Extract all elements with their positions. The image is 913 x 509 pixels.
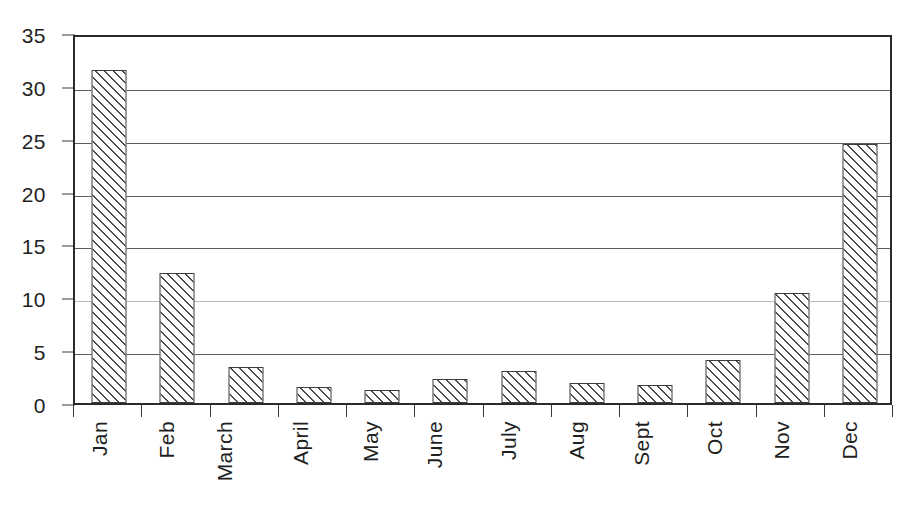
x-label-slot: Oct <box>687 417 755 509</box>
x-label-slot: June <box>414 417 482 509</box>
x-tick-mark <box>824 405 825 417</box>
bar[interactable] <box>842 144 877 403</box>
y-tick-label: 25 <box>22 130 46 151</box>
x-tick-label: July <box>497 421 518 460</box>
bar[interactable] <box>365 390 400 403</box>
bar[interactable] <box>638 385 673 403</box>
y-tick-label: 20 <box>22 183 46 204</box>
x-tick-label: Aug <box>566 421 587 460</box>
bars-group <box>75 37 890 403</box>
bar[interactable] <box>296 387 331 403</box>
x-tick-mark <box>278 405 279 417</box>
x-tick-label: Feb <box>157 421 178 458</box>
x-tick-mark <box>756 405 757 417</box>
x-label-slot: Aug <box>551 417 619 509</box>
bar[interactable] <box>569 383 604 403</box>
x-tick-label: April <box>290 421 311 465</box>
x-label-slot: Feb <box>141 417 209 509</box>
x-axis: JanFebMarchAprilMayJuneJulyAugSeptOctNov… <box>73 417 892 509</box>
x-tick-label: Sept <box>631 421 652 466</box>
x-tick-mark <box>210 405 211 417</box>
x-tick-mark <box>551 405 552 417</box>
bar[interactable] <box>433 379 468 403</box>
x-label-slot: May <box>346 417 414 509</box>
x-label-slot: Nov <box>756 417 824 509</box>
bar-slot <box>416 37 484 403</box>
bar[interactable] <box>228 367 263 403</box>
bar[interactable] <box>706 360 741 403</box>
y-tick-label: 15 <box>22 236 46 257</box>
x-tick-label: Oct <box>704 421 725 455</box>
bar-slot <box>280 37 348 403</box>
x-tick-label: May <box>360 421 381 462</box>
x-axis-ticks <box>73 405 892 417</box>
bar-slot <box>553 37 621 403</box>
x-tick-mark <box>414 405 415 417</box>
y-tick-label: 10 <box>22 289 46 310</box>
x-label-slot: April <box>278 417 346 509</box>
bar-slot <box>75 37 143 403</box>
x-tick-mark <box>892 405 893 417</box>
bar-slot <box>143 37 211 403</box>
x-tick-label: Jan <box>90 421 111 456</box>
bar[interactable] <box>774 293 809 403</box>
x-label-slot: July <box>483 417 551 509</box>
x-label-slot: Dec <box>824 417 892 509</box>
bar-slot <box>212 37 280 403</box>
bar-slot <box>348 37 416 403</box>
x-tick-mark <box>687 405 688 417</box>
x-tick-mark <box>141 405 142 417</box>
x-tick-mark <box>619 405 620 417</box>
x-label-slot: Sept <box>619 417 687 509</box>
x-tick-label: March <box>213 421 234 481</box>
x-tick-mark <box>346 405 347 417</box>
bar[interactable] <box>501 371 536 403</box>
x-tick-label: Dec <box>839 421 860 460</box>
x-label-slot: Jan <box>73 417 141 509</box>
bar-slot <box>689 37 757 403</box>
y-tick-label: 5 <box>34 342 46 363</box>
x-label-slot: March <box>210 417 278 509</box>
x-tick-label: June <box>425 421 446 468</box>
x-tick-mark <box>483 405 484 417</box>
y-axis: 05101520253035 <box>0 0 62 509</box>
x-tick-mark <box>73 405 74 417</box>
bar-slot <box>826 37 894 403</box>
plot-area <box>73 35 892 405</box>
x-tick-label: Nov <box>770 421 791 460</box>
bar-slot <box>485 37 553 403</box>
bar[interactable] <box>160 273 195 403</box>
y-tick-label: 30 <box>22 77 46 98</box>
bar-chart: 05101520253035 JanFebMarchAprilMayJuneJu… <box>0 0 913 509</box>
bar[interactable] <box>92 70 127 403</box>
bar-slot <box>758 37 826 403</box>
y-tick-label: 35 <box>22 25 46 46</box>
bar-slot <box>621 37 689 403</box>
y-tick-label: 0 <box>34 395 46 416</box>
